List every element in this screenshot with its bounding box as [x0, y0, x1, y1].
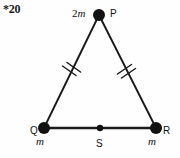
mass-label-q: m: [36, 136, 44, 147]
figure-container: *20 2m P Q m S R m: [0, 0, 180, 158]
vertex-dot-r: [150, 122, 162, 134]
midpoint-label-s: S: [96, 139, 103, 149]
mass-label-r: m: [148, 136, 156, 147]
vertex-dot-q: [38, 122, 50, 134]
edge-pr: [99, 15, 156, 128]
midpoint-dot-s: [97, 125, 103, 131]
mass-label-p: 2m: [72, 8, 85, 19]
vertex-label-p: P: [110, 9, 117, 19]
vertex-label-r: R: [163, 126, 170, 136]
vertex-dot-p: [93, 9, 105, 21]
